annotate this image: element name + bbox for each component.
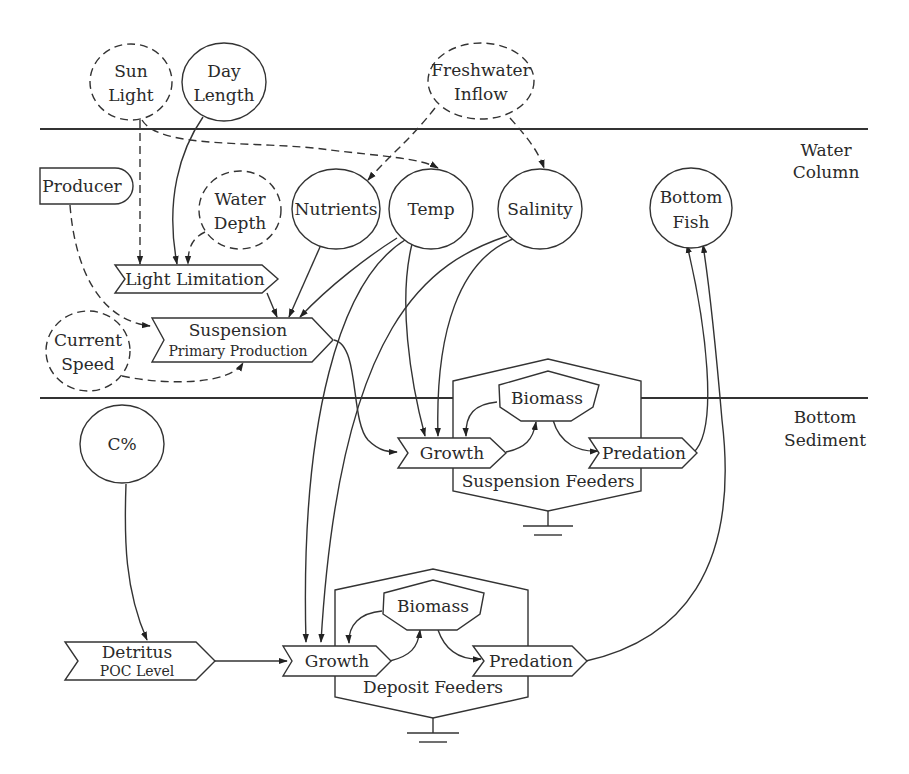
node-freshwater-inflow[interactable]: Freshwater Inflow (428, 43, 534, 119)
svg-text:POC Level: POC Level (100, 663, 175, 679)
node-biomass-deposit[interactable]: Biomass (383, 580, 484, 630)
zone-label-water-column: Water Column (793, 140, 860, 182)
node-nutrients[interactable]: Nutrients (292, 169, 380, 249)
svg-text:Fish: Fish (673, 212, 710, 232)
node-bottom-fish[interactable]: Bottom Fish (650, 168, 732, 248)
svg-text:Water: Water (800, 140, 852, 160)
edge-lightlimit-suspension (267, 293, 277, 317)
svg-text:Bottom: Bottom (660, 187, 723, 207)
deposit-feeders-title: Deposit Feeders (363, 677, 503, 697)
svg-text:Sun: Sun (114, 61, 148, 81)
svg-text:Water: Water (214, 189, 266, 209)
node-growth-deposit[interactable]: Growth (283, 646, 391, 676)
svg-text:Temp: Temp (407, 199, 454, 219)
svg-text:Length: Length (194, 85, 255, 105)
edge-predation-fish-susp (687, 245, 708, 453)
node-salinity[interactable]: Salinity (498, 169, 582, 249)
svg-text:Growth: Growth (420, 443, 484, 463)
edge-cpercent-detritus (125, 484, 147, 640)
edge-currentspeed-suspension (122, 363, 243, 382)
svg-text:Speed: Speed (61, 354, 115, 374)
svg-text:Suspension: Suspension (189, 320, 288, 340)
edge-suspension-growth (334, 340, 397, 452)
edge-nutrients-suspension (289, 247, 320, 317)
edge-sunlight-temp (142, 120, 438, 168)
edge-waterdepth-lightlimit (188, 232, 205, 264)
svg-text:Depth: Depth (214, 213, 266, 233)
svg-text:Inflow: Inflow (454, 84, 508, 104)
edge-growth-biomass-dep (390, 630, 420, 661)
edge-biomass-growth-susp (466, 402, 497, 436)
node-suspension-primary-production[interactable]: Suspension Primary Production (152, 318, 333, 362)
node-biomass-suspension[interactable]: Biomass (499, 371, 599, 421)
node-day-length[interactable]: Day Length (182, 43, 266, 121)
node-producer[interactable]: Producer (40, 168, 133, 204)
node-sun-light[interactable]: Sun Light (90, 44, 172, 120)
node-temp[interactable]: Temp (389, 169, 473, 249)
edge-growth-biomass-susp (506, 422, 536, 452)
node-water-depth[interactable]: Water Depth (199, 171, 281, 249)
svg-text:Light Limitation: Light Limitation (125, 269, 265, 289)
node-growth-suspension[interactable]: Growth (398, 438, 506, 468)
edge-biomass-predation-dep (438, 630, 481, 659)
node-current-speed[interactable]: Current Speed (46, 311, 130, 391)
node-c-percent[interactable]: C% (80, 405, 164, 483)
svg-text:Biomass: Biomass (397, 596, 469, 616)
svg-text:Nutrients: Nutrients (295, 199, 378, 219)
svg-text:Predation: Predation (602, 443, 686, 463)
node-light-limitation[interactable]: Light Limitation (115, 265, 278, 293)
svg-text:C%: C% (107, 434, 136, 454)
ecosystem-diagram: Water Column Bottom Sediment (0, 0, 909, 774)
svg-text:Predation: Predation (489, 651, 573, 671)
svg-text:Column: Column (793, 162, 860, 182)
suspension-feeders-title: Suspension Feeders (462, 471, 635, 491)
edge-biomass-predation-susp (553, 420, 598, 451)
svg-text:Detritus: Detritus (102, 642, 173, 662)
svg-text:Growth: Growth (305, 651, 369, 671)
svg-text:Freshwater: Freshwater (431, 60, 531, 80)
svg-text:Sediment: Sediment (784, 430, 866, 450)
node-predation-suspension[interactable]: Predation (589, 438, 697, 468)
edge-biomass-growth-dep (349, 611, 382, 643)
svg-text:Biomass: Biomass (511, 388, 583, 408)
edge-temp-growth-dep (305, 240, 405, 642)
edge-freshwater-salinity (510, 118, 544, 168)
edge-daylength-lightlimit (173, 117, 203, 264)
svg-text:Primary Production: Primary Production (168, 343, 307, 359)
svg-text:Light: Light (108, 85, 154, 105)
svg-text:Bottom: Bottom (794, 407, 857, 427)
node-predation-deposit[interactable]: Predation (473, 646, 587, 676)
svg-text:Day: Day (207, 61, 241, 81)
svg-text:Producer: Producer (42, 176, 122, 196)
edge-temp-suspension (300, 238, 397, 317)
zone-label-bottom-sediment: Bottom Sediment (784, 407, 866, 450)
svg-text:Current: Current (54, 330, 122, 350)
edge-temp-growth-susp (406, 244, 425, 436)
node-detritus-poc-level[interactable]: Detritus POC Level (65, 642, 215, 680)
svg-text:Salinity: Salinity (507, 199, 573, 219)
